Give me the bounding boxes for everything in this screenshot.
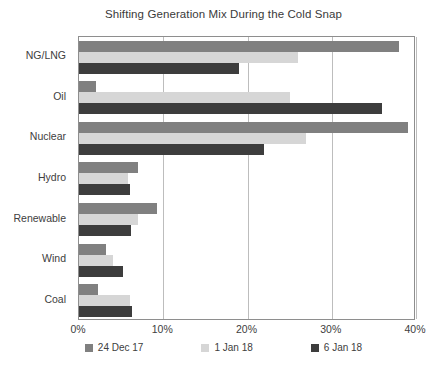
plot-area bbox=[78, 36, 415, 320]
bar bbox=[79, 244, 106, 255]
bar bbox=[79, 306, 132, 317]
legend-item[interactable]: 6 Jan 18 bbox=[311, 342, 362, 353]
legend-label: 24 Dec 17 bbox=[98, 342, 144, 353]
y-axis-tick-label: Coal bbox=[44, 293, 66, 305]
bar bbox=[79, 255, 113, 266]
bar bbox=[79, 225, 131, 236]
bar-group bbox=[79, 78, 414, 119]
bar bbox=[79, 214, 138, 225]
legend-label: 1 Jan 18 bbox=[214, 342, 252, 353]
bar bbox=[79, 284, 98, 295]
x-axis-tick-label: 0% bbox=[70, 323, 85, 335]
bar bbox=[79, 92, 290, 103]
bar bbox=[79, 162, 138, 173]
x-axis-tick-label: 40% bbox=[404, 323, 425, 335]
bar bbox=[79, 144, 264, 155]
legend-label: 6 Jan 18 bbox=[324, 342, 362, 353]
bar bbox=[79, 173, 128, 184]
bar bbox=[79, 203, 157, 214]
bar bbox=[79, 63, 239, 74]
bar bbox=[79, 52, 298, 63]
bar bbox=[79, 81, 96, 92]
bar bbox=[79, 133, 306, 144]
bar-group bbox=[79, 199, 414, 240]
y-axis-tick-label: Hydro bbox=[38, 171, 66, 183]
x-axis-tick-label: 20% bbox=[236, 323, 257, 335]
legend-item[interactable]: 24 Dec 17 bbox=[85, 342, 144, 353]
bar-group bbox=[79, 159, 414, 200]
legend-swatch-icon bbox=[311, 344, 319, 352]
bar bbox=[79, 184, 130, 195]
legend-swatch-icon bbox=[85, 344, 93, 352]
bar bbox=[79, 103, 382, 114]
bar bbox=[79, 122, 408, 133]
y-axis-tick-label: NG/LNG bbox=[26, 49, 66, 61]
x-axis-labels: 0%10%20%30%40% bbox=[78, 323, 415, 339]
y-axis-tick-label: Nuclear bbox=[30, 130, 66, 142]
x-axis-tick-label: 10% bbox=[152, 323, 173, 335]
x-gridline bbox=[416, 37, 417, 319]
bar-group bbox=[79, 280, 414, 321]
bar-group bbox=[79, 37, 414, 78]
legend-item[interactable]: 1 Jan 18 bbox=[201, 342, 252, 353]
bar bbox=[79, 41, 399, 52]
bar-group bbox=[79, 240, 414, 281]
bar bbox=[79, 295, 130, 306]
chart-legend: 24 Dec 171 Jan 186 Jan 18 bbox=[0, 342, 447, 353]
x-axis-tick-label: 30% bbox=[320, 323, 341, 335]
y-axis-labels: NG/LNGOilNuclearHydroRenewableWindCoal bbox=[0, 36, 72, 320]
bar bbox=[79, 266, 123, 277]
y-axis-tick-label: Oil bbox=[53, 90, 66, 102]
legend-swatch-icon bbox=[201, 344, 209, 352]
chart-title: Shifting Generation Mix During the Cold … bbox=[0, 8, 447, 20]
chart-screenshot: Shifting Generation Mix During the Cold … bbox=[0, 0, 447, 367]
y-axis-tick-label: Renewable bbox=[13, 212, 66, 224]
y-axis-tick-label: Wind bbox=[42, 252, 66, 264]
bar-group bbox=[79, 118, 414, 159]
